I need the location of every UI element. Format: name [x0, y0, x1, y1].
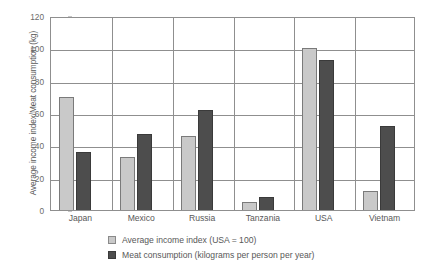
bar-group [294, 18, 355, 210]
legend-swatch-icon [108, 251, 116, 259]
bar-chart: Average income index/Meat consumption (k… [0, 0, 429, 277]
legend-label: Average income index (USA = 100) [122, 235, 256, 245]
bar-group [51, 18, 112, 210]
bars-layer [51, 18, 414, 210]
bar [242, 202, 257, 210]
y-axis-tick-label: 80 [22, 77, 44, 87]
plot-area [50, 17, 415, 211]
bar-group [112, 18, 173, 210]
x-axis-label: Tanzania [233, 213, 294, 223]
bar [302, 48, 317, 210]
x-axis-label: USA [293, 213, 354, 223]
bar [319, 60, 334, 210]
bar [259, 197, 274, 210]
bar [120, 157, 135, 210]
y-axis-tick-label: 40 [22, 141, 44, 151]
x-axis-label: Mexico [111, 213, 172, 223]
y-axis-tick-label: 120 [22, 12, 44, 22]
bar [363, 191, 378, 210]
bar [137, 134, 152, 210]
legend-swatch-icon [108, 236, 116, 244]
x-axis-category-labels: JapanMexicoRussiaTanzaniaUSAVietnam [50, 213, 415, 227]
legend-item[interactable]: Meat consumption (kilograms per person p… [108, 247, 315, 262]
y-axis-tick-label: 0 [22, 206, 44, 216]
chart-legend: Average income index (USA = 100)Meat con… [108, 232, 315, 262]
bar [59, 97, 74, 210]
y-axis-tick-label: 20 [22, 174, 44, 184]
bar [181, 136, 196, 210]
bar [76, 152, 91, 210]
legend-item[interactable]: Average income index (USA = 100) [108, 232, 315, 247]
bar-group [355, 18, 416, 210]
bar-group [234, 18, 295, 210]
legend-label: Meat consumption (kilograms per person p… [122, 250, 315, 260]
bar-group [173, 18, 234, 210]
y-axis-tick-label: 100 [22, 44, 44, 54]
y-axis-tick-labels: 020406080100120 [22, 17, 44, 211]
x-axis-label: Russia [172, 213, 233, 223]
bar [198, 110, 213, 210]
x-axis-label: Vietnam [354, 213, 415, 223]
y-axis-tick-label: 60 [22, 109, 44, 119]
bar [380, 126, 395, 210]
x-axis-label: Japan [50, 213, 111, 223]
